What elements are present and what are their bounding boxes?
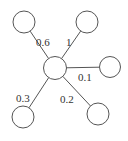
edge-weight-label: 0.6 [36,36,50,48]
nodes [12,11,121,128]
edge-bottom-left [29,78,49,108]
center-node [44,57,67,80]
node-top-left [13,11,35,33]
edge-weight-label: 1 [66,36,72,48]
edge-weight-label: 0.2 [60,93,74,105]
star-graph-diagram: 0.610.10.30.2 [0,0,128,141]
edge-right [66,67,99,68]
node-bottom-right [87,103,109,125]
edge-weight-label: 0.3 [16,92,30,104]
node-bottom-left [12,106,34,128]
edge-weight-label: 0.1 [78,71,92,83]
node-top-right [76,11,98,33]
node-right [100,57,121,78]
